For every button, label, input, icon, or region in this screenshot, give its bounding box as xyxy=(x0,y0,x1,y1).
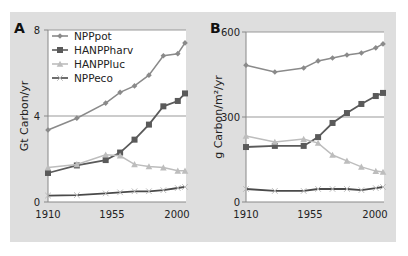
square-marker-icon xyxy=(330,120,336,126)
panel-a-xtick: 2000 xyxy=(164,209,189,220)
legend-label: HANPPluc xyxy=(74,58,125,70)
square-marker-icon xyxy=(175,98,181,104)
legend-label: NPPeco xyxy=(74,72,113,84)
square-marker-icon xyxy=(182,90,188,96)
square-marker-icon xyxy=(160,103,166,109)
square-marker-icon xyxy=(373,93,379,99)
panel-b-xtick: 1955 xyxy=(297,209,322,220)
square-marker-icon xyxy=(243,144,249,150)
square-marker-icon xyxy=(146,122,152,128)
panel-a-letter: A xyxy=(14,20,25,36)
panel-b-letter: B xyxy=(210,20,221,36)
panel-a-ylabel: Gt Carbon/yr xyxy=(18,80,31,151)
square-marker-icon xyxy=(103,157,109,163)
panel-b-ytick: 600 xyxy=(221,27,240,38)
panel-b-xtick: 2000 xyxy=(362,209,387,220)
panel-b-xtick: 1910 xyxy=(233,209,258,220)
square-marker-icon xyxy=(358,101,364,107)
legend-label: NPPpot xyxy=(74,30,112,42)
square-marker-icon xyxy=(315,134,321,140)
square-marker-icon xyxy=(57,47,63,53)
panel-a-xtick: 1955 xyxy=(99,209,124,220)
panel-a-xtick: 1910 xyxy=(35,209,60,220)
panel-a-ytick: 0 xyxy=(34,197,40,208)
panel-b-ytick: 0 xyxy=(234,197,240,208)
panel-b-ylabel: g Carbon/m²/yr xyxy=(212,75,225,159)
square-marker-icon xyxy=(132,137,138,143)
square-marker-icon xyxy=(344,110,350,116)
panel-a-ytick: 4 xyxy=(34,111,40,122)
square-marker-icon xyxy=(380,90,386,96)
panel-b: B 600 300 0 1910 1955 2000 g Carbon/m²/y… xyxy=(210,20,388,220)
figure: A 8 4 0 1910 1955 2000 Gt Carbon/yr NPPp… xyxy=(0,0,408,256)
legend-label: HANPPharv xyxy=(74,44,133,56)
square-marker-icon xyxy=(301,143,307,149)
panel-a-ytick: 8 xyxy=(34,25,40,36)
panel-a: A 8 4 0 1910 1955 2000 Gt Carbon/yr NPPp… xyxy=(14,20,190,220)
square-marker-icon xyxy=(45,170,51,176)
